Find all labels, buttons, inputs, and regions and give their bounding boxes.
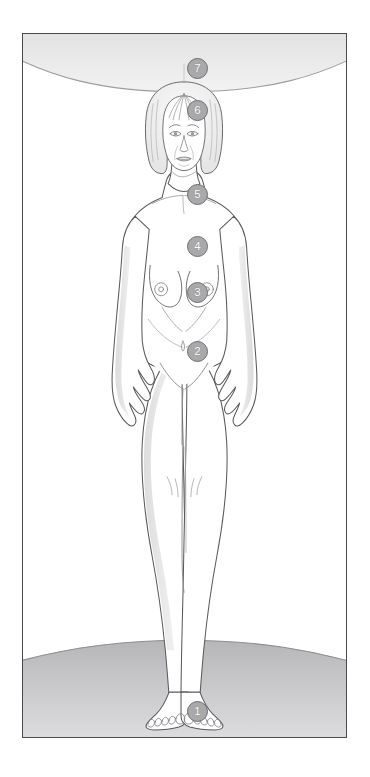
marker-1-feet[interactable]: 1 <box>187 701 208 722</box>
diagram-frame: 7 6 5 4 3 2 1 <box>22 33 347 738</box>
marker-2-label: 2 <box>194 345 200 357</box>
marker-1-label: 1 <box>194 705 200 717</box>
marker-3-label: 3 <box>194 286 200 298</box>
marker-6-forehead[interactable]: 6 <box>187 100 208 121</box>
diagram-canvas: 7 6 5 4 3 2 1 <box>0 0 370 777</box>
marker-5-label: 5 <box>194 188 200 200</box>
marker-3-solar-plexus[interactable]: 3 <box>187 282 208 303</box>
marker-4-label: 4 <box>194 240 200 252</box>
marker-6-label: 6 <box>194 104 200 116</box>
marker-7-crown[interactable]: 7 <box>187 58 208 79</box>
marker-2-lower-abdomen[interactable]: 2 <box>187 341 208 362</box>
marker-5-throat[interactable]: 5 <box>187 184 208 205</box>
body-figure-illustration <box>23 34 346 737</box>
marker-4-chest[interactable]: 4 <box>187 236 208 257</box>
marker-7-label: 7 <box>194 62 200 74</box>
